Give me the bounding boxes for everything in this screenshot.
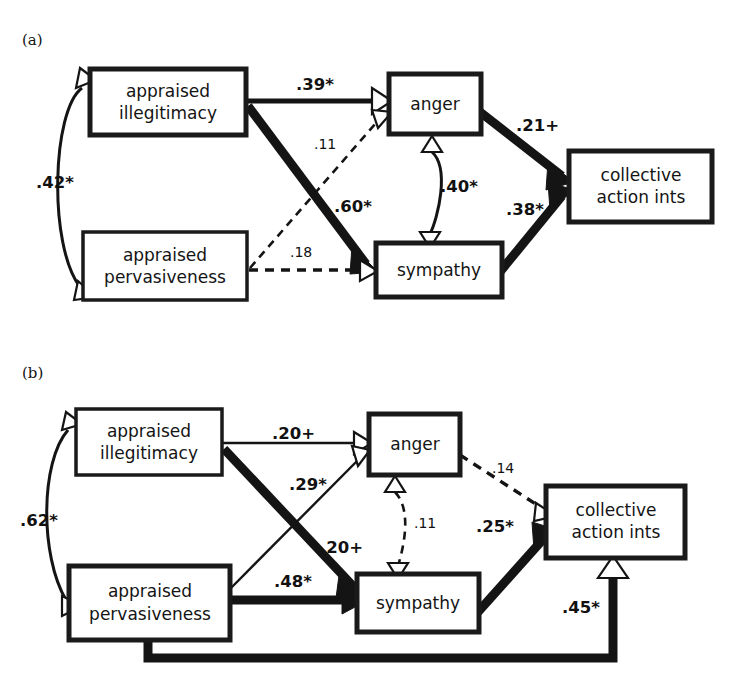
coefficient-label: .11: [414, 515, 436, 531]
node-label-line2: action ints: [597, 187, 686, 207]
node-label-line1: anger: [390, 434, 439, 454]
panel-a-node-collective: collective action ints: [569, 151, 712, 222]
coefficient-label: .29*: [289, 475, 327, 494]
coefficient-label: .11: [314, 136, 336, 152]
coefficient-label: .20+: [320, 538, 363, 557]
node-box: [90, 69, 246, 135]
node-label-line2: pervasiveness: [89, 604, 211, 624]
coefficient-label: .14: [492, 460, 514, 476]
node-label-line2: illegitimacy: [119, 103, 217, 123]
coefficient-label: .48*: [274, 572, 312, 591]
node-box: [69, 566, 230, 640]
panel-a-tag: (a): [22, 31, 43, 49]
node-label-line2: action ints: [572, 522, 661, 542]
coefficient-label: .62*: [20, 511, 58, 530]
node-label-line2: illegitimacy: [100, 443, 198, 463]
node-label-line1: appraised: [107, 421, 191, 441]
node-label-line1: appraised: [123, 245, 207, 265]
coefficient-label: .39*: [296, 75, 334, 94]
path-diagram-figure: (a) .42* .39* .60* .11: [0, 0, 740, 681]
panel-b-tag: (b): [22, 364, 43, 382]
node-label-line1: sympathy: [397, 260, 481, 280]
coefficient-label: .25*: [476, 517, 514, 536]
panel-a-node-sympathy: sympathy: [376, 243, 502, 297]
panel-b-node-anger: anger: [369, 414, 460, 475]
node-label-line1: anger: [410, 94, 459, 114]
coefficient-label: .20+: [272, 424, 315, 443]
coefficient-label: .18: [290, 244, 312, 260]
coefficient-label: .45*: [562, 598, 600, 617]
coefficient-label: .42*: [36, 173, 74, 192]
panel-b-node-sympathy: sympathy: [357, 574, 479, 632]
panel-a-node-pervasiveness: appraised pervasiveness: [83, 232, 247, 300]
coefficient-label: .21+: [516, 116, 559, 135]
node-label-line1: collective: [601, 165, 682, 185]
panel-b-node-collective: collective action ints: [546, 486, 685, 558]
node-box: [83, 232, 247, 300]
panel-b-node-pervasiveness: appraised pervasiveness: [69, 566, 230, 640]
coefficient-label: .60*: [334, 197, 372, 216]
node-label-line1: collective: [576, 500, 657, 520]
node-box: [76, 409, 222, 475]
panel-a-node-illegitimacy: appraised illegitimacy: [90, 69, 246, 135]
node-label-line1: sympathy: [376, 593, 460, 613]
coefficient-label: .40*: [440, 177, 478, 196]
panel-b-node-illegitimacy: appraised illegitimacy: [76, 409, 222, 475]
node-label-line2: pervasiveness: [104, 267, 226, 287]
coefficient-label: .38*: [506, 200, 544, 219]
node-label-line1: appraised: [126, 81, 210, 101]
node-label-line1: appraised: [108, 581, 192, 601]
panel-a-node-anger: anger: [389, 74, 481, 134]
